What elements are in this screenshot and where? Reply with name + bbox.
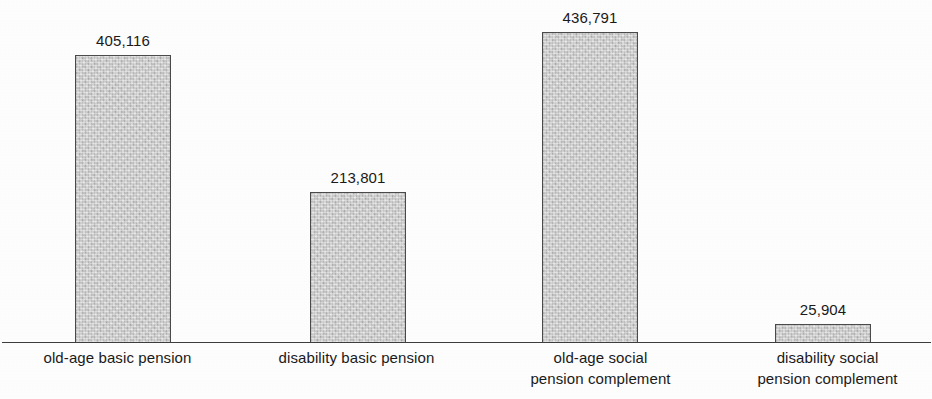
category-label-line: pension complement xyxy=(478,368,723,389)
bar-old-age-social-pension-complement xyxy=(542,32,638,343)
bar-disability-social-pension-complement xyxy=(775,324,871,343)
bar-group-2: 213,801 xyxy=(310,192,406,343)
category-label-line: disability social xyxy=(723,347,932,368)
bar-value-label-3: 436,791 xyxy=(563,9,618,26)
category-label-line: disability basic pension xyxy=(235,347,478,368)
category-label-line: old-age social xyxy=(478,347,723,368)
bar-group-4: 25,904 xyxy=(775,324,871,343)
bar-old-age-basic-pension xyxy=(75,55,171,343)
bar-value-label-1: 405,116 xyxy=(96,32,150,49)
bar-group-1: 405,116 xyxy=(75,55,171,343)
category-label-line: old-age basic pension xyxy=(0,347,235,368)
category-label-2: disability basic pension xyxy=(235,347,478,368)
category-label-1: old-age basic pension xyxy=(0,347,235,368)
category-label-3: old-age socialpension complement xyxy=(478,347,723,389)
bar-disability-basic-pension xyxy=(310,192,406,343)
category-label-line: pension complement xyxy=(723,368,932,389)
x-axis-line xyxy=(2,342,931,343)
bar-chart: 405,116 213,801 436,791 25,904 old-age b… xyxy=(0,0,932,399)
bar-value-label-4: 25,904 xyxy=(800,301,846,318)
bar-value-label-2: 213,801 xyxy=(331,169,386,186)
bar-group-3: 436,791 xyxy=(542,32,638,343)
plot-area: 405,116 213,801 436,791 25,904 xyxy=(0,0,932,343)
category-label-4: disability socialpension complement xyxy=(723,347,932,389)
x-axis-category-labels: old-age basic pension disability basic p… xyxy=(0,347,932,399)
